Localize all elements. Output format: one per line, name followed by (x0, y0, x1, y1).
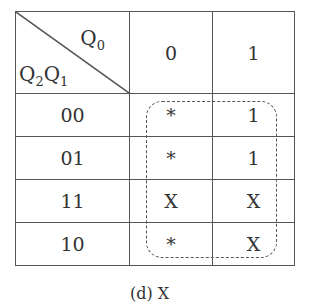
row-variable-label: Q2Q1 (19, 62, 68, 89)
row-header: 01 (16, 137, 130, 180)
grouping-loop (146, 101, 277, 258)
row-header: 00 (16, 94, 130, 137)
column-variable-label: Q0 (80, 26, 105, 53)
row-header: 11 (16, 180, 130, 223)
row-header: 10 (16, 223, 130, 266)
column-header: 0 (130, 12, 213, 94)
column-header: 1 (213, 12, 295, 94)
diagonal-header-cell: Q0 Q2Q1 (16, 12, 130, 94)
figure-caption: (d) X (130, 284, 169, 303)
